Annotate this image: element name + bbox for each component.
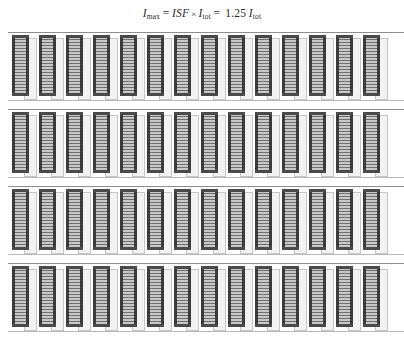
- server-cabinet: [120, 112, 142, 176]
- cabinet-rack-units: [66, 266, 83, 327]
- cabinet-bottom-cap: [39, 247, 56, 250]
- cabinet-rack-units: [12, 189, 29, 250]
- cabinet-bottom-cap: [147, 324, 164, 327]
- cabinet-bottom-cap: [363, 170, 380, 173]
- cabinet-bottom-cap: [282, 170, 299, 173]
- server-cabinet: [363, 35, 385, 99]
- aisle-line: [8, 32, 404, 33]
- formula-result-subscript: tot: [253, 12, 262, 21]
- server-cabinet: [12, 266, 34, 330]
- server-cabinet: [228, 189, 250, 253]
- cabinet-bottom-cap: [120, 324, 137, 327]
- cabinet-bottom-cap: [147, 170, 164, 173]
- server-cabinet: [228, 35, 250, 99]
- cabinet-bottom-cap: [39, 324, 56, 327]
- cabinet-top-cap: [120, 189, 137, 192]
- cabinet-top-cap: [147, 189, 164, 192]
- aisle-line: [8, 263, 404, 264]
- cabinet-top-cap: [282, 112, 299, 115]
- formula-equals-2: =: [211, 7, 223, 19]
- cabinet-top-cap: [93, 35, 110, 38]
- cabinet-bottom-cap: [93, 324, 110, 327]
- cabinet-bottom-cap: [363, 247, 380, 250]
- server-cabinet: [174, 266, 196, 330]
- cabinet-top-cap: [93, 266, 110, 269]
- server-cabinet: [282, 266, 304, 330]
- server-cabinet: [93, 266, 115, 330]
- cabinet-bottom-cap: [66, 247, 83, 250]
- server-cabinet: [336, 189, 358, 253]
- cabinet-top-cap: [93, 112, 110, 115]
- aisle-line: [8, 109, 404, 110]
- rack-row: [0, 184, 404, 256]
- cabinet-rack-units: [336, 189, 353, 250]
- cabinet-bottom-cap: [336, 170, 353, 173]
- rack-group: [12, 35, 390, 99]
- cabinet-rack-units: [147, 112, 164, 173]
- cabinet-rack-units: [39, 35, 56, 96]
- server-cabinet: [93, 112, 115, 176]
- server-cabinet: [12, 189, 34, 253]
- server-cabinet: [228, 266, 250, 330]
- cabinet-top-cap: [147, 266, 164, 269]
- cabinet-rack-units: [255, 35, 272, 96]
- cabinet-rack-units: [309, 112, 326, 173]
- cabinet-bottom-cap: [39, 170, 56, 173]
- cabinet-bottom-cap: [201, 170, 218, 173]
- cabinet-bottom-cap: [228, 93, 245, 96]
- cabinet-bottom-cap: [120, 247, 137, 250]
- formula-factor-symbol: ISF: [172, 7, 189, 19]
- cabinet-top-cap: [174, 266, 191, 269]
- cabinet-bottom-cap: [147, 93, 164, 96]
- cabinet-rack-units: [336, 266, 353, 327]
- cabinet-bottom-cap: [282, 324, 299, 327]
- server-cabinet: [120, 35, 142, 99]
- cabinet-top-cap: [336, 35, 353, 38]
- cabinet-top-cap: [39, 189, 56, 192]
- cabinet-rack-units: [255, 266, 272, 327]
- server-cabinet: [336, 35, 358, 99]
- rack-group: [12, 112, 390, 176]
- formula-lhs-subscript: max: [147, 12, 161, 21]
- cabinet-rack-units: [201, 112, 218, 173]
- server-cabinet: [12, 35, 34, 99]
- formula-current-subscript: tot: [203, 12, 212, 21]
- cabinet-bottom-cap: [255, 324, 272, 327]
- row-base-line: [8, 331, 404, 332]
- cabinet-bottom-cap: [147, 247, 164, 250]
- server-cabinet: [255, 266, 277, 330]
- server-cabinet: [39, 266, 61, 330]
- server-cabinet: [147, 35, 169, 99]
- cabinet-bottom-cap: [66, 93, 83, 96]
- cabinet-top-cap: [336, 189, 353, 192]
- cabinet-rack-units: [363, 112, 380, 173]
- row-base-line: [8, 177, 404, 178]
- cabinet-top-cap: [228, 189, 245, 192]
- server-cabinet: [93, 35, 115, 99]
- cabinet-bottom-cap: [201, 93, 218, 96]
- cabinet-top-cap: [309, 189, 326, 192]
- rack-row: [0, 107, 404, 179]
- cabinet-top-cap: [174, 112, 191, 115]
- cabinet-rack-units: [39, 112, 56, 173]
- server-cabinet: [336, 266, 358, 330]
- cabinet-top-cap: [336, 266, 353, 269]
- cabinet-rack-units: [120, 112, 137, 173]
- cabinet-rack-units: [336, 112, 353, 173]
- cabinet-bottom-cap: [12, 170, 29, 173]
- cabinet-bottom-cap: [93, 170, 110, 173]
- cabinet-rack-units: [120, 35, 137, 96]
- cabinet-bottom-cap: [309, 324, 326, 327]
- cabinet-bottom-cap: [120, 93, 137, 96]
- cabinet-rack-units: [201, 35, 218, 96]
- cabinet-bottom-cap: [39, 93, 56, 96]
- server-cabinet: [66, 35, 88, 99]
- cabinet-rack-units: [174, 266, 191, 327]
- rack-group: [12, 266, 390, 330]
- cabinet-top-cap: [12, 189, 29, 192]
- row-base-line: [8, 254, 404, 255]
- cabinet-rack-units: [282, 35, 299, 96]
- cabinet-bottom-cap: [201, 247, 218, 250]
- cabinet-rack-units: [201, 189, 218, 250]
- cabinet-bottom-cap: [309, 247, 326, 250]
